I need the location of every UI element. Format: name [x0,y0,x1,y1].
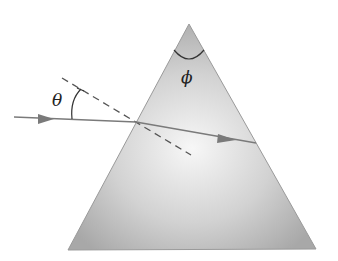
prism-refraction-diagram: θ ϕ [0,0,338,261]
incidence-angle-arc [72,89,81,119]
incidence-angle-label: θ [52,90,62,110]
apex-angle-label: ϕ [181,67,193,87]
prism [68,24,316,250]
incident-ray [14,117,136,122]
incident-ray-arrow-icon [38,114,54,124]
incidence-angle-tick [77,88,84,91]
